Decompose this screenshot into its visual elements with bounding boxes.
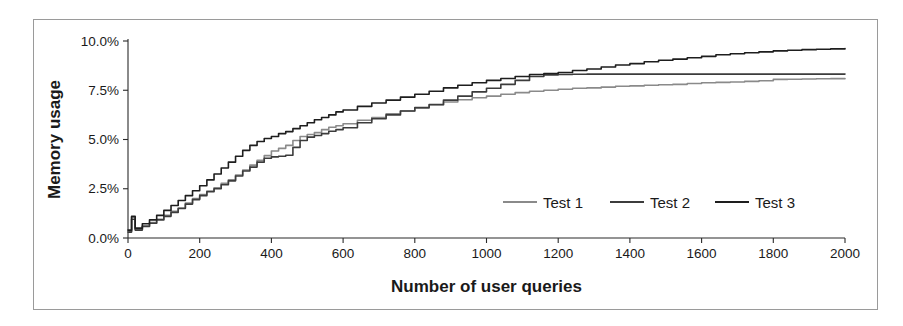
x-tick-label: 1400 [615, 246, 645, 261]
x-tick-label: 400 [260, 246, 283, 261]
y-tick-label: 7.5% [88, 83, 119, 98]
legend-label-3: Test 3 [755, 194, 795, 211]
x-axis-title: Number of user queries [391, 277, 582, 296]
x-tick-label: 600 [332, 246, 355, 261]
chart-figure: 0.0%2.5%5.0%7.5%10.0%0200400600800100012… [0, 0, 903, 326]
series-line-1 [128, 78, 845, 231]
x-tick-label: 800 [404, 246, 427, 261]
y-tick-label: 2.5% [88, 181, 119, 196]
y-tick-label: 0.0% [88, 231, 119, 246]
legend-label-2: Test 2 [650, 194, 690, 211]
x-tick-label: 2000 [830, 246, 860, 261]
y-tick-label: 10.0% [81, 34, 119, 49]
legend-item-3[interactable]: Test 3 [715, 194, 795, 211]
x-tick-label: 1600 [687, 246, 717, 261]
y-axis-title: Memory usage [45, 80, 64, 199]
line-chart: 0.0%2.5%5.0%7.5%10.0%0200400600800100012… [0, 0, 903, 326]
y-tick-label: 5.0% [88, 132, 119, 147]
x-tick-label: 1000 [471, 246, 501, 261]
legend-label-1: Test 1 [543, 194, 583, 211]
legend-item-1[interactable]: Test 1 [503, 194, 583, 211]
x-tick-label: 1800 [758, 246, 788, 261]
legend-item-2[interactable]: Test 2 [610, 194, 690, 211]
x-tick-label: 0 [124, 246, 132, 261]
x-tick-label: 200 [188, 246, 211, 261]
x-tick-label: 1200 [543, 246, 573, 261]
